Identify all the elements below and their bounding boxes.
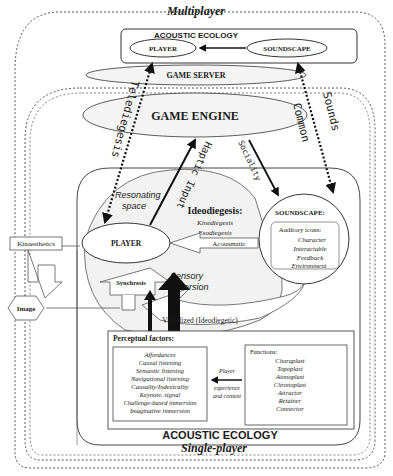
auditory-icon-item: Feedback [296, 254, 324, 261]
top-soundscape-label: SOUNDSCAPE [263, 45, 311, 53]
exodiegesis-label: Exodiegesis [197, 229, 232, 237]
visualized-label: Visualized (Ideodiegetic) [162, 316, 238, 325]
auditory-icon-item: Character [298, 236, 326, 243]
kinediegesis-label: Kinediegesis [196, 219, 233, 227]
function-item: Aionoplast [275, 373, 304, 380]
game-server-label: GAME SERVER [166, 71, 225, 80]
acousmatic-label: Acousmatic [212, 240, 245, 248]
perceptual-factor-item: Causal listening [139, 359, 182, 366]
ideodiegesis-title: Ideodiegesis: [188, 205, 243, 216]
kinaesthetics-label: Kinaesthetics [17, 240, 55, 248]
top-player-label: PLAYER [149, 45, 178, 53]
perceptual-factor-item: Semantic listening [136, 367, 185, 374]
function-item: Attractor [277, 389, 302, 396]
auditory-icon-item: Environment [291, 262, 328, 269]
sounds-label: Sounds [320, 91, 342, 133]
soundscape-title: SOUNDSCAPE: [275, 209, 325, 217]
function-item: Connector [276, 405, 304, 412]
perceptual-factor-item: Navigational listening [130, 375, 190, 382]
image-label: Image [17, 305, 36, 313]
acoustic-ecology-bottom-title: ACOUSTIC ECOLOGY [162, 429, 278, 441]
function-item: Choraplast [275, 357, 304, 364]
functions-title: Functions: [250, 348, 278, 355]
auditory-icon-item: Interactable [292, 245, 326, 252]
player-experience-label-2: experience [214, 385, 240, 391]
player-experience-label: Player [218, 368, 236, 374]
synchresis-label: Synchresis [116, 279, 146, 286]
multiplayer-title: Multiplayer [166, 4, 225, 18]
resonating-space-label: Resonating [115, 190, 161, 200]
resonating-space-label-2: space [122, 201, 146, 211]
kinaesthetics-to-image-arrow [28, 246, 80, 298]
game-engine-label: GAME ENGINE [151, 109, 239, 123]
function-item: Chronoplast [274, 381, 306, 388]
auditory-icons-label: Auditory icons: [279, 226, 322, 233]
player-label: PLAYER [111, 239, 142, 248]
function-item: Topoplast [277, 365, 303, 372]
perceptual-factor-item: Keynote, signal [139, 391, 181, 398]
perceptual-factor-item: Imaginative immersion [129, 407, 190, 414]
perceptual-factors-title: Perceptual factors: [113, 334, 174, 343]
sociality-label: Sociality [236, 139, 263, 182]
player-experience-label-3: and context [213, 393, 241, 399]
perceptual-factor-item: Affordances [143, 351, 176, 358]
function-item: Retainer [278, 397, 302, 404]
perceptual-factor-item: Causality/Indexicality [131, 383, 189, 390]
perceptual-factor-item: Challenge-based immersion [123, 399, 196, 406]
acoustic-ecology-diagram: Multiplayer ACOUSTIC ECOLOGY PLAYER SOUN… [0, 0, 393, 476]
single-player-title: Single-player [181, 441, 247, 455]
